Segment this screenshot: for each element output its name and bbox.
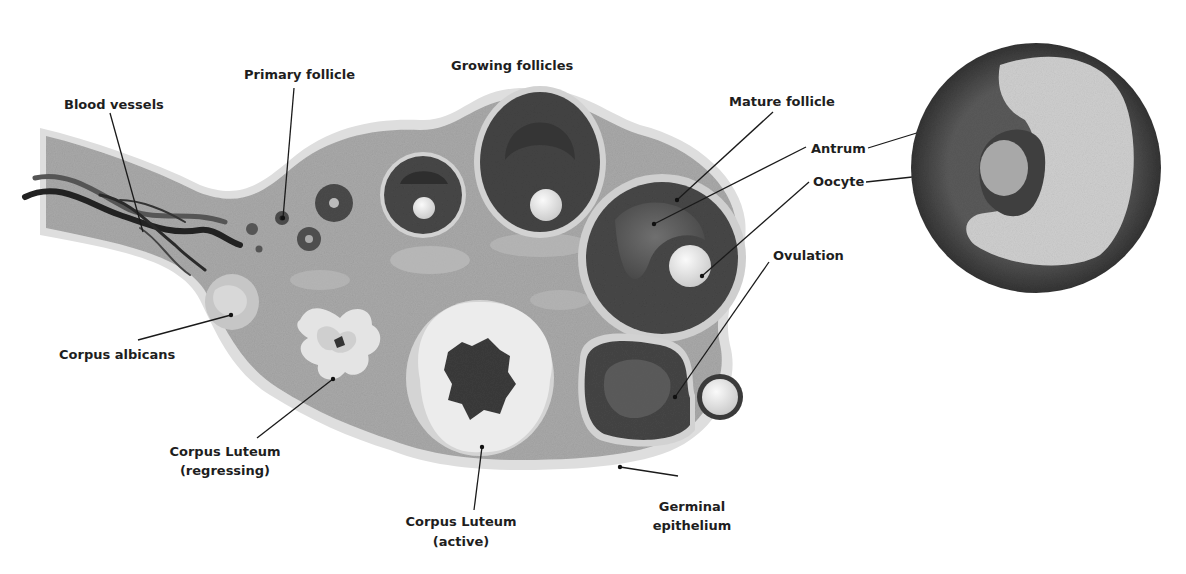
label-corpus-luteum-regressing-sub: (regressing) [180, 463, 270, 478]
label-corpus-luteum-active: Corpus Luteum [405, 514, 516, 529]
label-ovulation: Ovulation [773, 248, 844, 263]
corpus-luteum-active [406, 300, 554, 456]
label-corpus-albicans: Corpus albicans [59, 347, 175, 362]
label-primary-follicle: Primary follicle [244, 67, 355, 82]
label-germinal-epithelium-sub: epithelium [653, 518, 732, 533]
label-corpus-luteum-active-sub: (active) [433, 534, 489, 549]
label-antrum: Antrum [811, 141, 866, 156]
label-growing-follicles: Growing follicles [451, 58, 573, 73]
ovary-diagram: Blood vessels Primary follicle Growing f… [0, 0, 1186, 574]
label-blood-vessels: Blood vessels [64, 97, 164, 112]
label-corpus-luteum-regressing: Corpus Luteum [169, 444, 280, 459]
corpus-albicans [205, 274, 259, 330]
growing-follicle-small [380, 152, 466, 238]
mature-follicle [578, 174, 746, 342]
growing-follicle-large [474, 86, 606, 238]
follicle-micrograph-inset [911, 43, 1161, 293]
label-oocyte: Oocyte [813, 174, 864, 189]
label-mature-follicle: Mature follicle [729, 94, 835, 109]
label-germinal-epithelium: Germinal [659, 499, 725, 514]
